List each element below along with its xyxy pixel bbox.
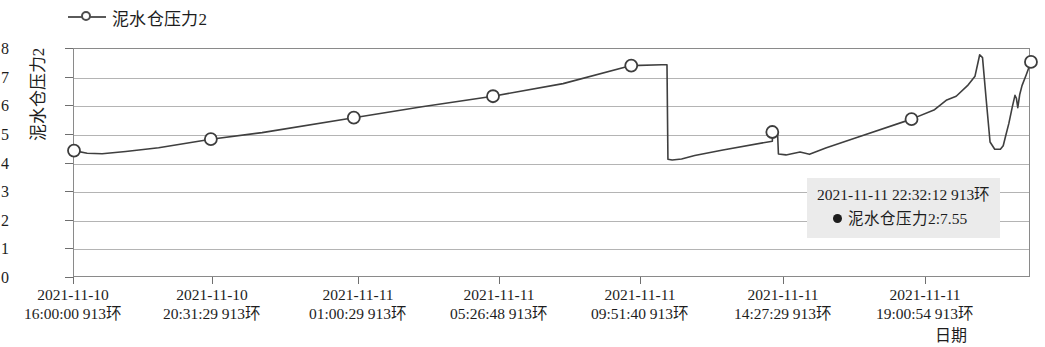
data-point-marker[interactable]	[487, 90, 499, 102]
chart-legend: 泥水仓压力2	[0, 0, 1045, 34]
legend-item-series-1[interactable]: 泥水仓压力2	[68, 6, 207, 28]
chart-tooltip: 2021-11-11 22:32:12 913环 泥水仓压力2:7.55	[807, 178, 1000, 238]
data-point-marker-highlighted[interactable]	[1025, 56, 1037, 68]
plot-area	[73, 48, 1030, 277]
y-tick-label: 2	[0, 213, 9, 229]
series-markers	[68, 56, 1037, 157]
data-point-marker[interactable]	[205, 133, 217, 145]
y-tick-label: 1	[0, 241, 9, 257]
y-tick-label: 5	[0, 127, 9, 143]
y-tick-label: 6	[0, 98, 9, 114]
y-tick-label: 8	[0, 41, 9, 57]
data-point-marker[interactable]	[906, 113, 918, 125]
tooltip-body: 泥水仓压力2:7.55	[817, 207, 990, 231]
y-tick-label: 4	[0, 156, 9, 172]
y-tick-label: 0	[0, 270, 9, 286]
y-axis-title: 泥水仓压力2	[24, 15, 49, 175]
line-circle-marker-icon	[68, 11, 106, 23]
data-point-marker[interactable]	[348, 112, 360, 124]
chart-page: 泥水仓压力2 泥水仓压力2 8 7 6 5 4 3 2 1 0	[0, 0, 1045, 347]
tooltip-value-text: 泥水仓压力2:7.55	[848, 210, 967, 227]
legend-item-label: 泥水仓压力2	[112, 5, 207, 30]
x-tick-label: 2021-11-11 19:00:54 913环	[835, 286, 1015, 324]
x-tick-date: 2021-11-11	[835, 286, 1015, 305]
x-tick-time: 19:00:54 913环	[835, 305, 1015, 324]
tooltip-header: 2021-11-11 22:32:12 913环	[817, 183, 990, 207]
x-axis-title: 日期	[935, 322, 1035, 346]
data-point-marker[interactable]	[625, 60, 637, 72]
series-plot	[74, 49, 1031, 278]
y-tick-label: 3	[0, 184, 9, 200]
y-tick-label: 7	[0, 70, 9, 86]
series-line-path	[74, 55, 1031, 160]
data-point-marker[interactable]	[766, 126, 778, 138]
series-dot-icon	[833, 214, 842, 223]
data-point-marker[interactable]	[68, 145, 80, 157]
